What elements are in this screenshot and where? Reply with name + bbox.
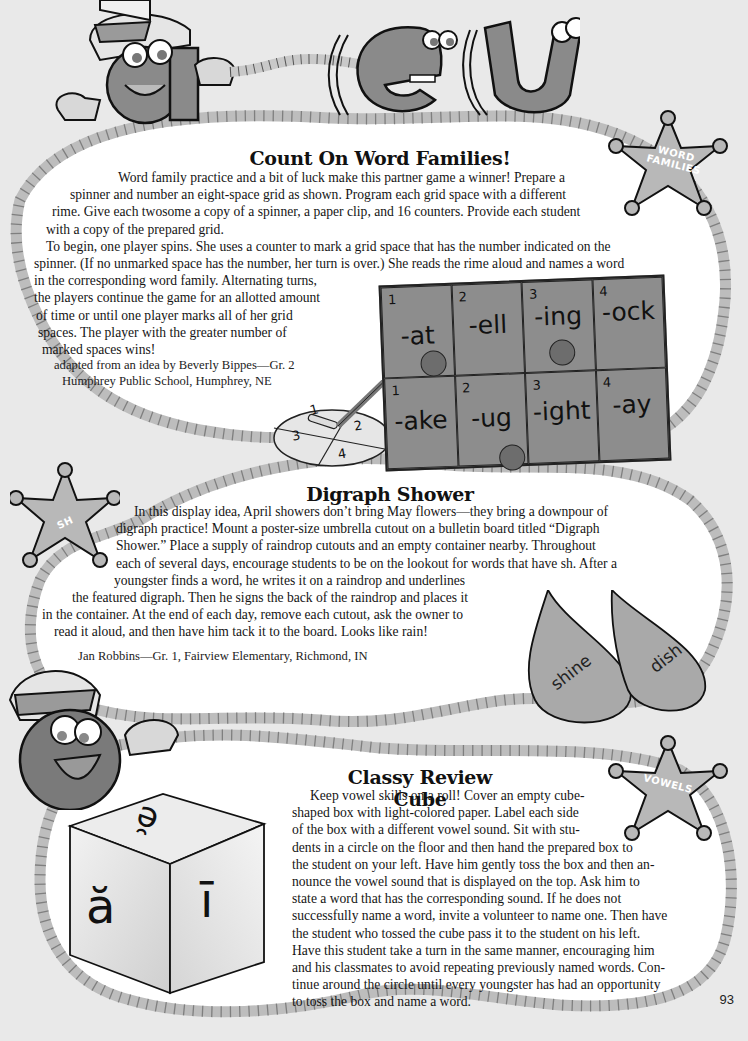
- counter-marker: [498, 444, 525, 471]
- grid-cell: 2-ug: [455, 373, 529, 467]
- header-letter-characters: [40, 0, 580, 125]
- grid-cell: 3-ing: [522, 279, 596, 373]
- grid-cell: 4-ay: [595, 368, 669, 462]
- section-title-count-on-word-families: Count On Word Families!: [200, 147, 560, 169]
- grid-cell: 1-at: [381, 285, 455, 379]
- letter-e-character-icon: [329, 27, 457, 115]
- grid-cell: 4-ock: [592, 277, 666, 371]
- cube-face-right: ī: [200, 872, 213, 928]
- raindrops-illustration: [510, 590, 730, 730]
- word-family-grid: 1-at 2-ell 3-ing 4-ock 1-ake 2-ug 3-ight…: [379, 275, 672, 472]
- grid-cell: 2-ell: [451, 282, 525, 376]
- section-title-digraph-shower: Digraph Shower: [240, 483, 540, 505]
- grid-cell: 3-ight: [525, 370, 599, 464]
- page-number: 93: [720, 992, 734, 1007]
- counter-marker: [549, 339, 576, 366]
- letter-a-character-icon: [56, 0, 235, 123]
- spinner-illustration: [268, 380, 398, 470]
- cube-face-left: ă: [86, 878, 115, 934]
- letter-u-character-icon: [463, 18, 580, 115]
- grid-cell: 1-ake: [384, 376, 458, 470]
- counter-marker: [420, 350, 447, 377]
